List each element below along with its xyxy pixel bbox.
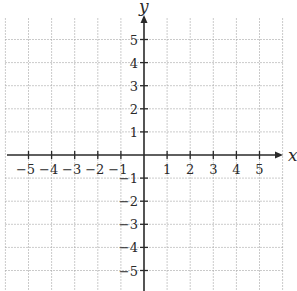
axes [7, 17, 281, 291]
x-tick-label: 1 [163, 162, 171, 177]
x-tick-label: 4 [232, 162, 240, 177]
y-tick-label: 2 [130, 102, 138, 117]
y-tick-label: −5 [119, 264, 138, 279]
x-tick-label: −5 [16, 162, 35, 177]
x-tick-label: −3 [62, 162, 81, 177]
y-tick-label: 3 [130, 79, 138, 94]
x-tick-label: −4 [39, 162, 58, 177]
x-tick-label: −2 [85, 162, 104, 177]
y-tick-label: 5 [130, 33, 138, 48]
coordinate-plane: −5−4−3−2−112345 54321−1−2−3−4−5 x y [0, 0, 297, 291]
y-tick-label: 4 [130, 56, 138, 71]
x-tick-label: 3 [209, 162, 217, 177]
y-tick-label: −3 [119, 217, 138, 232]
y-tick-label: −1 [119, 171, 138, 186]
y-axis-label: y [138, 0, 149, 16]
y-tick-label: 1 [130, 125, 138, 140]
y-tick-label: −2 [119, 194, 138, 209]
x-tick-label: 2 [186, 162, 194, 177]
x-tick-labels: −5−4−3−2−112345 [16, 162, 264, 177]
x-tick-label: 5 [255, 162, 263, 177]
y-tick-label: −4 [119, 240, 138, 255]
x-axis-label: x [288, 145, 297, 165]
